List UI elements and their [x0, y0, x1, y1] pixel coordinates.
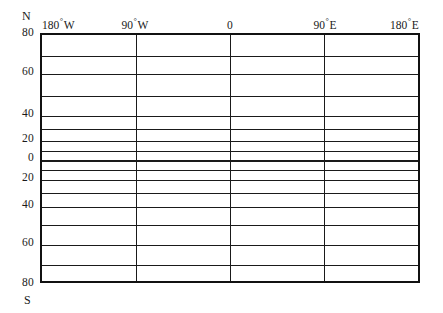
- longitude-tick-label: 180°E: [390, 19, 419, 31]
- figure-canvas: N S 80604020020406080 180°W90°W090°E180°…: [0, 0, 443, 313]
- longitude-tick-value: 90: [122, 19, 134, 31]
- latitude-tick-label: 20: [22, 172, 34, 184]
- latitude-tick-label: 60: [22, 66, 34, 78]
- latitude-tick-label: 0: [28, 152, 34, 164]
- longitude-gridline: [136, 35, 137, 281]
- longitude-tick-value: 90: [314, 19, 326, 31]
- latitude-axis: 80604020020406080: [0, 0, 34, 313]
- latitude-tick-label: 80: [22, 277, 34, 289]
- graticule-plot-area: [40, 33, 420, 283]
- longitude-tick-value: 180: [42, 19, 59, 31]
- longitude-tick-value: 0: [227, 19, 233, 31]
- longitude-gridline: [324, 35, 325, 281]
- latitude-tick-label: 40: [22, 199, 34, 211]
- longitude-tick-label: 0: [227, 19, 233, 31]
- longitude-hemisphere-label: W: [64, 19, 75, 31]
- longitude-tick-label: 90°W: [122, 19, 149, 31]
- longitude-tick-label: 180°W: [42, 19, 75, 31]
- latitude-tick-label: 60: [22, 237, 34, 249]
- longitude-hemisphere-label: W: [137, 19, 148, 31]
- latitude-tick-label: 40: [22, 108, 34, 120]
- longitude-hemisphere-label: E: [412, 19, 419, 31]
- longitude-tick-value: 180: [390, 19, 407, 31]
- latitude-tick-label: 20: [22, 133, 34, 145]
- longitude-gridline: [230, 35, 231, 281]
- longitude-tick-label: 90°E: [314, 19, 337, 31]
- longitude-hemisphere-label: E: [329, 19, 336, 31]
- longitude-axis: 180°W90°W090°E180°E: [0, 14, 443, 31]
